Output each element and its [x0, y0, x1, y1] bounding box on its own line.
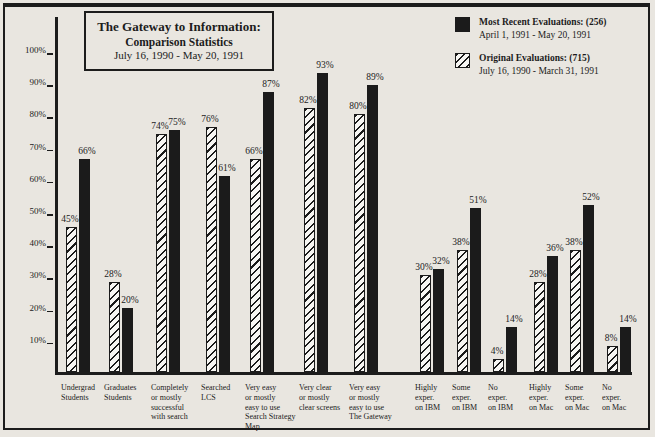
- chart-title: The Gateway to Information:: [86, 19, 272, 35]
- y-tick-mark: [47, 117, 53, 119]
- y-tick-label: 50%: [14, 206, 46, 216]
- bar-value-label: 14%: [612, 314, 644, 324]
- y-tick-label: 40%: [14, 238, 46, 248]
- y-tick-mark: [47, 311, 53, 313]
- bar-value-label: 75%: [161, 117, 193, 127]
- category-label: Completelyor mostlysuccessfulwith search: [151, 383, 207, 422]
- category-label-line: easy to use: [245, 403, 301, 413]
- bar-most-recent-evaluations: [583, 205, 594, 372]
- legend-entry-original: Original Evaluations: (715) July 16, 199…: [455, 52, 599, 76]
- legend-original-label: Original Evaluations: (715): [479, 52, 599, 66]
- legend-recent-dates: April 1, 1991 - May 20, 1991: [479, 30, 606, 40]
- y-tick-mark: [47, 53, 53, 55]
- category-label-line: successful: [151, 403, 207, 413]
- category-label-line: exper.: [602, 393, 655, 403]
- category-label-line: or mostly: [151, 393, 207, 403]
- y-tick-label: 100%: [14, 45, 46, 55]
- category-label-line: No: [602, 383, 655, 393]
- bar-most-recent-evaluations: [79, 159, 90, 372]
- bar-most-recent-evaluations: [219, 176, 230, 372]
- bar-original-evaluations: [607, 346, 618, 372]
- y-tick-label: 90%: [14, 77, 46, 87]
- legend-entry-recent: Most Recent Evaluations: (256) April 1, …: [455, 16, 606, 40]
- category-label-line: on Mac: [602, 403, 655, 413]
- bar-value-label: 66%: [71, 146, 103, 156]
- bar-value-label: 20%: [114, 295, 146, 305]
- y-tick-mark: [47, 150, 53, 152]
- bar-original-evaluations: [156, 134, 167, 372]
- legend-recent-label: Most Recent Evaluations: (256): [479, 16, 606, 30]
- category-label-line: clear screens: [299, 403, 355, 413]
- y-tick-label: 30%: [14, 270, 46, 280]
- category-label-line: or mostly: [349, 393, 405, 403]
- y-tick-mark: [47, 182, 53, 184]
- category-label-line: Very easy: [349, 383, 405, 393]
- category-label-line: with search: [151, 412, 207, 422]
- y-tick-label: 10%: [14, 335, 46, 345]
- category-label-line: Completely: [151, 383, 207, 393]
- x-axis-line: [55, 372, 632, 375]
- chart-subtitle: Comparison Statistics: [86, 35, 272, 49]
- bar-most-recent-evaluations: [263, 92, 274, 372]
- bar-most-recent-evaluations: [433, 269, 444, 372]
- bar-value-label: 32%: [425, 256, 457, 266]
- chart-title-box: The Gateway to Information: Comparison S…: [84, 11, 274, 71]
- bar-value-label: 87%: [255, 79, 287, 89]
- category-label-line: The Gateway: [349, 412, 405, 422]
- bar-most-recent-evaluations: [367, 85, 378, 372]
- category-label-line: or mostly: [245, 393, 301, 403]
- bar-most-recent-evaluations: [317, 73, 328, 372]
- y-axis-line: [55, 17, 58, 375]
- bar-most-recent-evaluations: [547, 256, 558, 372]
- bar-original-evaluations: [534, 282, 545, 372]
- category-label-line: Map: [245, 422, 301, 432]
- bar-most-recent-evaluations: [506, 327, 517, 372]
- bar-original-evaluations: [570, 250, 581, 372]
- bar-value-label: 89%: [359, 72, 391, 82]
- bar-original-evaluations: [304, 108, 315, 372]
- category-label-line: Search Strategy: [245, 412, 301, 422]
- y-tick-mark: [47, 246, 53, 248]
- category-label-line: Very easy: [245, 383, 301, 393]
- bar-value-label: 14%: [498, 314, 530, 324]
- solid-swatch-icon: [455, 17, 470, 32]
- bar-original-evaluations: [250, 159, 261, 372]
- bar-value-label: 51%: [462, 195, 494, 205]
- category-label: Very clearor mostlyclear screens: [299, 383, 355, 412]
- bar-most-recent-evaluations: [620, 327, 631, 372]
- hatch-swatch-icon: [455, 53, 470, 68]
- bar-original-evaluations: [457, 250, 468, 372]
- y-tick-mark: [47, 214, 53, 216]
- bar-value-label: 76%: [194, 114, 226, 124]
- category-label-line: Very clear: [299, 383, 355, 393]
- y-tick-label: 20%: [14, 303, 46, 313]
- category-label: Very easyor mostlyeasy to useSearch Stra…: [245, 383, 301, 432]
- bar-most-recent-evaluations: [169, 130, 180, 372]
- bar-original-evaluations: [420, 275, 431, 372]
- category-label-line: easy to use: [349, 403, 405, 413]
- bar-most-recent-evaluations: [122, 308, 133, 372]
- category-label: Noexper.on Mac: [602, 383, 655, 412]
- bar-original-evaluations: [354, 114, 365, 372]
- y-tick-label: 60%: [14, 174, 46, 184]
- y-tick-mark: [47, 343, 53, 345]
- bar-most-recent-evaluations: [470, 208, 481, 372]
- bar-original-evaluations: [493, 359, 504, 372]
- bar-original-evaluations: [66, 227, 77, 372]
- y-tick-label: 70%: [14, 142, 46, 152]
- bar-value-label: 28%: [97, 269, 129, 279]
- bar-value-label: 93%: [309, 60, 341, 70]
- y-tick-mark: [47, 85, 53, 87]
- bar-value-label: 52%: [575, 192, 607, 202]
- category-label: Very easyor mostlyeasy to useThe Gateway: [349, 383, 405, 422]
- y-tick-label: 80%: [14, 109, 46, 119]
- category-label-line: or mostly: [299, 393, 355, 403]
- legend-original-dates: July 16, 1990 - March 31, 1991: [479, 66, 599, 76]
- chart-date-range: July 16, 1990 - May 20, 1991: [86, 49, 272, 63]
- y-tick-mark: [47, 278, 53, 280]
- bar-value-label: 61%: [211, 163, 243, 173]
